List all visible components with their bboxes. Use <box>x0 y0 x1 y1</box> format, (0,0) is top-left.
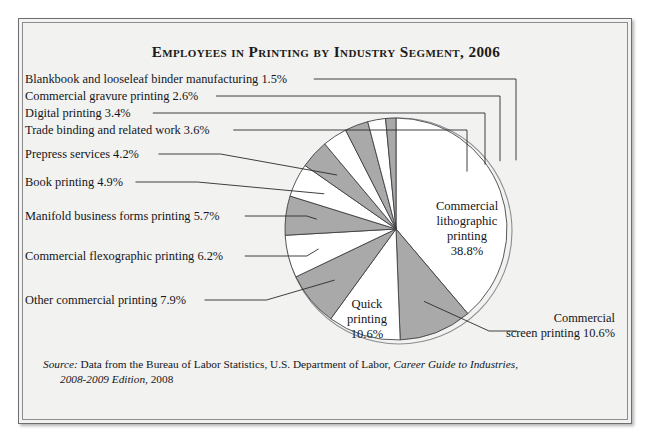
source-note: Source: Data from the Bureau of Labor St… <box>43 357 613 386</box>
slice-label-commercial-gravure: Commercial gravure printing 2.6% <box>25 89 198 103</box>
slice-label-digital-printing: Digital printing 3.4% <box>25 106 131 120</box>
label-line: screen printing 10.6% <box>506 326 615 340</box>
source-italic-1: Career Guide to Industries, <box>394 358 518 370</box>
label-line: Quick <box>352 297 383 311</box>
left-callout-labels: Blankbook and looseleaf binder manufactu… <box>25 72 287 307</box>
slice-label-book-printing: Book printing 4.9% <box>25 175 123 189</box>
label-line: 38.8% <box>451 244 484 258</box>
label-line: printing <box>447 229 488 243</box>
source-text-1: Data from the Bureau of Labor Statistics… <box>78 358 394 370</box>
slice-label-blankbook: Blankbook and looseleaf binder manufactu… <box>25 72 287 86</box>
label-line: Commercial <box>554 311 616 325</box>
label-line: 10.6% <box>351 327 384 341</box>
source-label: Source: <box>43 358 78 370</box>
label-line: lithographic <box>437 214 498 228</box>
slice-label-other-commercial: Other commercial printing 7.9% <box>25 293 186 307</box>
figure-frame: Employees in Printing by Industry Segmen… <box>18 18 632 424</box>
slice-label-commercial-flexographic: Commercial flexographic printing 6.2% <box>25 249 223 263</box>
figure-page: Employees in Printing by Industry Segmen… <box>0 0 649 443</box>
label-line: Commercial <box>436 199 499 213</box>
label-line: printing <box>347 312 388 326</box>
slice-label-commercial-screen-printing: Commercial screen printing 10.6% <box>506 311 616 340</box>
slice-label-trade-binding: Trade binding and related work 3.6% <box>25 123 210 137</box>
slice-label-quick-printing: Quick printing 10.6% <box>347 297 388 341</box>
source-italic-2: 2008-2009 Edition <box>60 373 145 385</box>
slice-label-manifold-business-forms: Manifold business forms printing 5.7% <box>25 209 219 223</box>
source-text-2: , 2008 <box>145 373 173 385</box>
slice-label-prepress-services: Prepress services 4.2% <box>25 147 139 161</box>
